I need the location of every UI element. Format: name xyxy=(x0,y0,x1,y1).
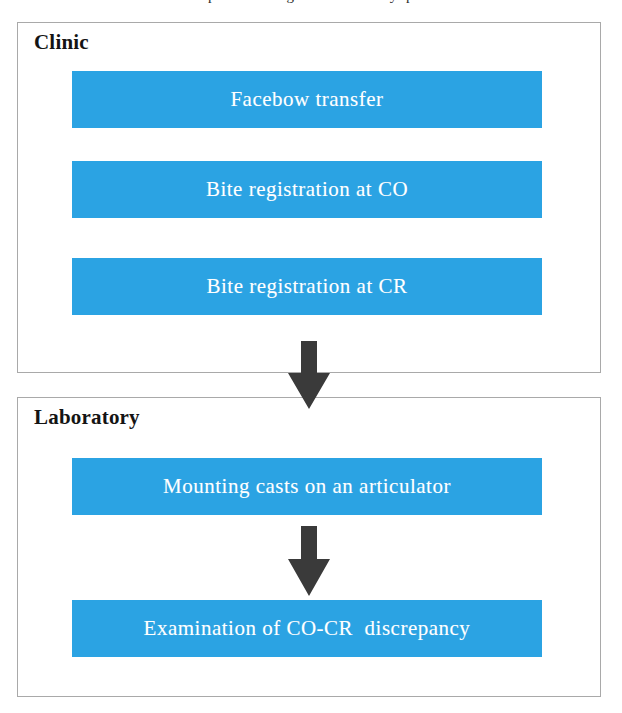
down-arrow-icon-clinic-to-laboratory xyxy=(285,341,333,409)
process-box-facebow-transfer[interactable]: Facebow transfer xyxy=(72,71,542,128)
process-box-bite-registration-co[interactable]: Bite registration at CO xyxy=(72,161,542,218)
section-title-laboratory: Laboratory xyxy=(34,407,140,428)
down-arrow-icon-mounting-to-examination xyxy=(285,526,333,596)
process-box-examination-co-cr[interactable]: Examination of CO-CR discrepancy xyxy=(72,600,542,657)
process-label-mounting-casts: Mounting casts on an articulator xyxy=(163,476,451,497)
process-label-examination-co-cr: Examination of CO-CR discrepancy xyxy=(144,618,471,639)
process-box-bite-registration-cr[interactable]: Bite registration at CR xyxy=(72,258,542,315)
process-label-bite-registration-co: Bite registration at CO xyxy=(206,179,408,200)
section-clinic: Clinic Facebow transfer Bite registratio… xyxy=(17,22,601,373)
flowchart-figure: Clinic Facebow transfer Bite registratio… xyxy=(0,0,622,713)
process-label-bite-registration-cr: Bite registration at CR xyxy=(206,276,407,297)
process-box-mounting-casts[interactable]: Mounting casts on an articulator xyxy=(72,458,542,515)
process-label-facebow-transfer: Facebow transfer xyxy=(230,89,383,110)
section-title-clinic: Clinic xyxy=(34,32,89,53)
